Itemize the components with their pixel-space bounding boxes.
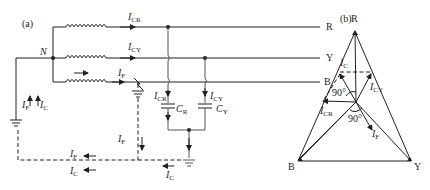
- phasor-i-f-label: IF: [371, 128, 379, 141]
- line-b-label: B: [324, 76, 331, 87]
- phasor-i-cy-label: ICY: [369, 81, 383, 94]
- neutral-label: N: [39, 46, 48, 57]
- line-r-label: R: [326, 21, 333, 32]
- coil-y-icon: [66, 56, 106, 59]
- line-y-label: Y: [326, 52, 333, 63]
- panel-b-label: (b): [340, 13, 352, 25]
- angle-upper-label: 90°: [332, 87, 346, 98]
- i-cr-branch-label: ICR: [153, 90, 167, 103]
- vertex-b-label: B: [288, 161, 295, 172]
- i-c-cap-return-label: IC: [165, 169, 174, 182]
- vertex-y-label: Y: [414, 161, 421, 172]
- capacitor-r-icon: [161, 104, 175, 108]
- voltage-triangle: [298, 32, 411, 161]
- capacitor-y-icon: [198, 104, 212, 108]
- capacitor-ground-icon: [183, 160, 195, 166]
- panel-a-label: (a): [22, 18, 33, 30]
- i-cy-label: ICY: [127, 41, 141, 54]
- phasor-i-c-label: IC: [339, 57, 348, 70]
- panel-a-circuit: (a) N R ICR Y ICY: [10, 11, 333, 182]
- i-f-up-label: IF: [21, 99, 29, 112]
- i-f-label: IF: [117, 67, 125, 80]
- angle-lower-label: 90°: [348, 113, 362, 124]
- branch-y: [205, 58, 207, 103]
- coil-r-icon: [66, 25, 106, 28]
- i-c-up-label: IC: [39, 99, 48, 112]
- fault-icon: [132, 78, 144, 97]
- panel-b-phasor: (b) R Y B IC ICY ICR IF 90° 90°: [288, 13, 421, 172]
- c-r-label: CR: [176, 103, 188, 116]
- i-f-return-label: IF: [69, 148, 77, 161]
- ground-icon: [10, 120, 22, 126]
- i-cr-label: ICR: [127, 11, 141, 24]
- phasor-i-cr: [323, 101, 356, 102]
- phasor-i-cy: [356, 74, 371, 102]
- coil-b-icon: [66, 80, 106, 83]
- i-f-down-label: IF: [117, 133, 125, 146]
- phasor-i-cr-label: ICR: [319, 105, 333, 118]
- i-c-return-label: IC: [69, 165, 78, 178]
- fault-current-diagram: (a) N R ICR Y ICY: [0, 0, 430, 190]
- vertex-r-label: R: [351, 13, 358, 24]
- i-cy-branch-label: ICY: [209, 90, 223, 103]
- c-y-label: CY: [216, 103, 228, 116]
- fault-return-path: [18, 98, 138, 160]
